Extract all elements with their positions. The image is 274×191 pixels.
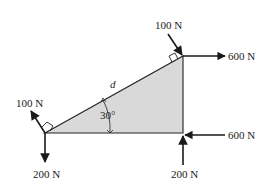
force-label-top-100: 100 N xyxy=(155,19,182,31)
force-label-top-600: 600 N xyxy=(228,50,255,62)
angle-label: 30° xyxy=(100,109,115,121)
force-label-left-200: 200 N xyxy=(33,168,60,180)
force-label-right-200: 200 N xyxy=(171,168,198,180)
force-label-right-600: 600 N xyxy=(228,129,255,141)
force-arrow-left-100 xyxy=(31,111,45,133)
force-label-left-100: 100 N xyxy=(16,97,43,109)
triangle-plate xyxy=(45,56,183,133)
hypotenuse-label: d xyxy=(110,78,116,90)
free-body-diagram: d 30° 100 N 600 N 100 N 200 N 600 N 200 … xyxy=(0,0,274,191)
force-arrow-top-100 xyxy=(168,34,182,55)
